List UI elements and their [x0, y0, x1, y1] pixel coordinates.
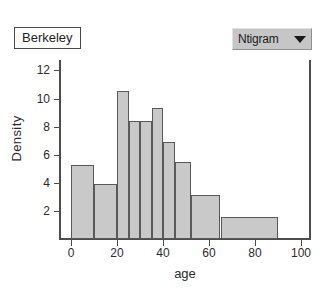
- y-axis-line: [59, 60, 61, 240]
- dataset-label-text: Berkeley: [22, 30, 73, 45]
- histogram-bar: [129, 121, 141, 239]
- y-axis-tick-label: 2: [28, 205, 50, 217]
- histogram-window: 24681012 020406080100 Density age Berkel…: [0, 0, 325, 290]
- x-axis-tick-label: 60: [194, 247, 224, 260]
- y-axis-tick: [54, 99, 60, 100]
- dataset-label[interactable]: Berkeley: [14, 27, 81, 49]
- y-axis-tick-label: 8: [28, 121, 50, 133]
- histogram-bar: [94, 184, 117, 239]
- x-axis-tick-label: 0: [56, 247, 86, 260]
- y-axis-tick-label: 4: [28, 177, 50, 189]
- x-axis-tick-label: 20: [102, 247, 132, 260]
- y-axis-tick-label: 6: [28, 149, 50, 161]
- chart-type-dropdown-value: Ntigram: [238, 32, 279, 46]
- x-axis-tick-label: 40: [148, 247, 178, 260]
- histogram-bar: [175, 162, 191, 239]
- histogram-bar: [140, 121, 152, 239]
- x-axis-title: age: [125, 266, 245, 281]
- y-axis-tick-label: 12: [28, 64, 50, 76]
- chart-type-dropdown[interactable]: Ntigram: [232, 28, 312, 50]
- plot-right-frame-line: [309, 60, 311, 240]
- histogram-bar: [163, 142, 175, 239]
- y-axis-tick: [54, 155, 60, 156]
- y-axis-tick-label: 10: [28, 93, 50, 105]
- y-axis-tick: [54, 127, 60, 128]
- y-axis-tick: [54, 211, 60, 212]
- y-axis-tick: [54, 183, 60, 184]
- histogram-bar: [117, 91, 129, 239]
- x-axis-tick-label: 80: [240, 247, 270, 260]
- y-axis-title: Density: [9, 104, 24, 174]
- histogram-bar: [152, 108, 164, 239]
- y-axis-tick: [54, 70, 60, 71]
- histogram-bar: [191, 195, 221, 239]
- chevron-down-icon: [294, 36, 306, 43]
- histogram-bar: [221, 217, 279, 239]
- histogram-bar: [71, 165, 94, 239]
- x-axis-tick-label: 100: [286, 247, 316, 260]
